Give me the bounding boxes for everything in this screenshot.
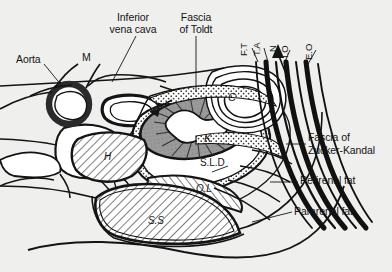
label-io: I.O <box>280 46 290 58</box>
label-eo: E.O <box>304 44 314 60</box>
label-h: H <box>104 152 111 162</box>
label-m: M <box>82 52 91 63</box>
label-aorta: Aorta <box>16 54 41 65</box>
label-fascia-toldt-line2: of Toldt <box>164 24 228 35</box>
label-perirenal-fat: Perirenal fat <box>300 175 355 186</box>
label-k: K <box>204 133 211 144</box>
label-ta: T.A <box>252 42 262 55</box>
label-fascia-toldt-line1: Fascia <box>164 12 228 23</box>
label-c: C <box>228 92 236 103</box>
label-sld: S.L.D <box>200 158 225 168</box>
label-ivc-line2: vena cava <box>96 24 170 35</box>
label-zucker-line2: Zucker-Kandal <box>308 145 375 156</box>
label-pararenal-fat: Pararenal fat <box>294 206 353 217</box>
label-ft: F.T <box>239 43 249 56</box>
label-ss: S.S <box>148 216 164 226</box>
label-zucker-line1: Fascia of <box>308 132 350 143</box>
aorta-vessel <box>49 84 89 124</box>
label-ivc-line1: Inferior <box>96 12 170 23</box>
label-n: N <box>268 45 278 52</box>
label-ql: Q.L <box>196 184 212 194</box>
